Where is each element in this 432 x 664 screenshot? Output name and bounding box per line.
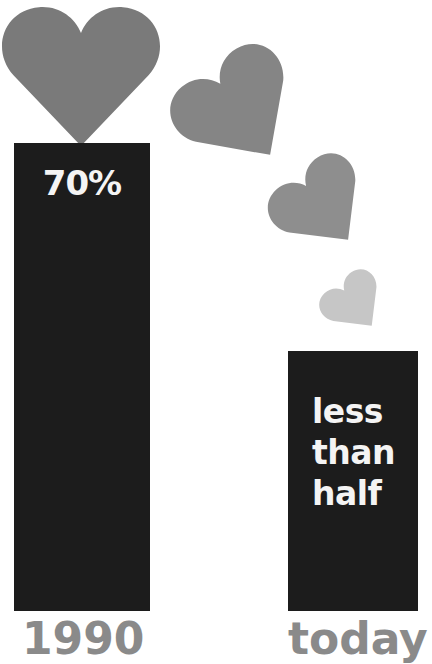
category-label-today: today [288,617,428,661]
label-line: half [312,473,395,514]
bar-1990: 70% [14,143,150,611]
heart-icon [318,268,390,338]
bar-value-label: 70% [14,163,150,203]
category-label-1990: 1990 [22,617,144,661]
bar-value-label: less than half [312,391,395,514]
bar-today: less than half [288,351,418,611]
heart-icon [266,152,376,258]
label-line: less [312,391,395,432]
label-line: than [312,432,395,473]
heart-icon [0,4,162,146]
